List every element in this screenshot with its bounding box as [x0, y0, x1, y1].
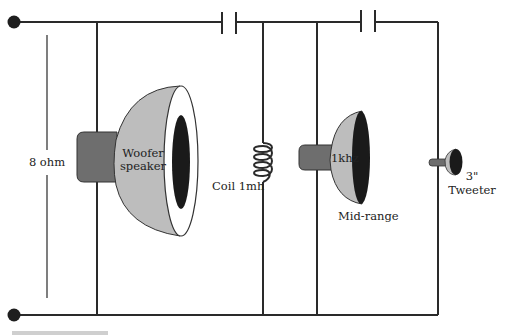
bottom-terminal-dot [8, 309, 21, 322]
midrange-label: Mid-range [338, 209, 399, 223]
top-terminal-dot [8, 16, 21, 29]
circuit-svg: 8 ohm Woofer speaker Coil 1mh 1khz Mid-r… [0, 0, 507, 335]
impedance-label: 8 ohm [29, 155, 65, 169]
midrange-magnet [299, 145, 332, 170]
woofer-label-line2: speaker [120, 159, 167, 173]
tweeter-label: Tweeter [448, 183, 496, 197]
tweeter-magnet [429, 159, 446, 166]
woofer-throat [172, 115, 190, 209]
crossover-diagram: 8 ohm Woofer speaker Coil 1mh 1khz Mid-r… [0, 0, 507, 335]
tweeter-label-size: 3" [466, 169, 479, 183]
midrange-speaker: 1khz Mid-range [299, 111, 399, 223]
woofer-speaker: Woofer speaker [77, 86, 198, 236]
woofer-magnet [77, 132, 117, 182]
tweeter-speaker: 3" Tweeter [429, 149, 496, 197]
capacitor-2 [361, 10, 375, 32]
capacitor-1 [222, 12, 236, 34]
footer-bar [12, 331, 108, 335]
woofer-label-line1: Woofer [122, 146, 164, 160]
midrange-label-inside: 1khz [331, 151, 359, 165]
inductor-coil: Coil 1mh [212, 143, 272, 193]
impedance-marker: 8 ohm [29, 35, 65, 298]
coil-label: Coil 1mh [212, 179, 265, 193]
tweeter-throat [450, 149, 463, 175]
